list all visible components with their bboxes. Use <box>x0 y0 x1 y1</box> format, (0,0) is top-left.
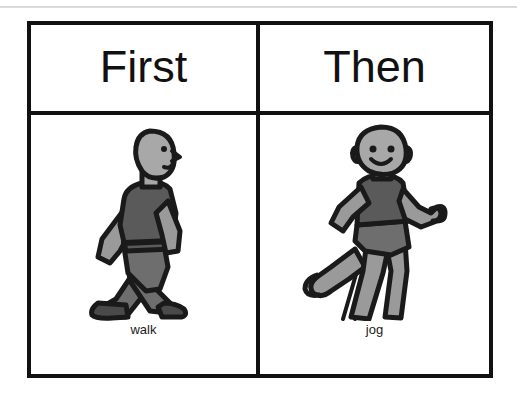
content-cell-first[interactable]: walk <box>31 115 260 374</box>
header-cell-first: First <box>31 25 260 111</box>
walking-person-icon <box>64 121 224 321</box>
item-label-jog: jog <box>366 323 383 336</box>
first-then-card-page: First Then <box>0 0 517 398</box>
jogging-person-icon <box>295 121 455 321</box>
table-header-row: First Then <box>31 25 489 115</box>
item-label-walk: walk <box>130 323 156 336</box>
header-label-first: First <box>100 44 187 93</box>
first-then-table: First Then <box>27 21 493 378</box>
table-body-row: walk <box>31 115 489 374</box>
header-cell-then: Then <box>260 25 489 111</box>
top-divider-rule <box>0 6 517 8</box>
header-label-then: Then <box>323 44 426 93</box>
content-cell-then[interactable]: jog <box>260 115 489 374</box>
